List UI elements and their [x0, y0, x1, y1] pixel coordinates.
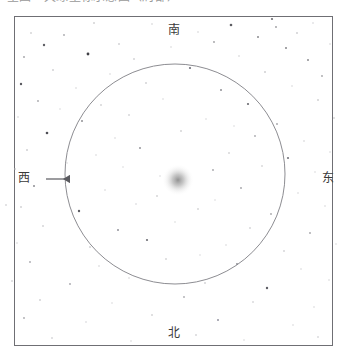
star-point: [33, 185, 35, 187]
star-point: [309, 232, 311, 234]
star-point: [214, 199, 215, 200]
star-point: [333, 117, 335, 119]
star-point: [240, 187, 242, 189]
star-point: [151, 314, 153, 316]
star-point: [100, 104, 102, 106]
star-point: [324, 205, 325, 206]
star-point: [197, 31, 198, 32]
star-point: [165, 258, 167, 260]
star-point: [151, 23, 152, 24]
star-point: [212, 169, 214, 171]
star-point: [128, 114, 130, 116]
star-point: [307, 59, 309, 61]
star-point: [135, 203, 136, 204]
star-point: [292, 324, 293, 325]
star-point: [122, 166, 123, 167]
star-point: [300, 268, 301, 269]
star-point: [195, 334, 197, 336]
star-point: [264, 71, 266, 73]
star-point: [285, 47, 287, 49]
star-point: [287, 157, 289, 159]
star-point: [159, 175, 160, 176]
star-point: [275, 26, 277, 28]
star-point: [109, 73, 110, 74]
star-point: [23, 317, 25, 319]
star-point: [205, 118, 206, 119]
star-point: [197, 208, 199, 210]
star-point: [37, 100, 39, 102]
star-point: [230, 24, 233, 27]
star-point: [111, 302, 112, 303]
star-point: [257, 36, 259, 38]
star-point: [95, 154, 96, 155]
star-point: [252, 301, 254, 303]
star-point: [20, 206, 22, 208]
star-point: [43, 44, 45, 46]
star-point: [81, 120, 83, 122]
star-point: [17, 116, 18, 117]
star-point: [16, 242, 17, 243]
star-point: [312, 22, 313, 23]
star-point: [52, 69, 54, 71]
star-point: [128, 277, 129, 278]
star-point: [78, 210, 80, 212]
star-point: [26, 149, 28, 151]
star-point: [51, 337, 53, 339]
star-point: [118, 43, 120, 45]
direction-label-south: 南: [168, 24, 180, 36]
star-point: [220, 89, 222, 91]
star-point: [104, 189, 105, 190]
star-point: [276, 123, 278, 125]
star-point: [217, 319, 219, 321]
star-point: [228, 152, 230, 154]
star-chart-panel: 星图 · 天球坐标示意图（局部） 南 北 东 西: [0, 0, 348, 356]
star-point: [20, 83, 22, 85]
star-point: [75, 87, 76, 88]
star-point: [249, 227, 251, 229]
star-point: [266, 287, 268, 289]
star-point: [291, 85, 292, 86]
center-nebula-glow: [162, 164, 194, 196]
star-point: [329, 43, 330, 44]
star-point: [63, 34, 65, 36]
star-point: [321, 75, 323, 77]
star-point: [297, 192, 298, 193]
star-point: [233, 125, 234, 126]
star-point: [328, 279, 329, 280]
star-point: [5, 204, 7, 206]
star-point: [271, 18, 273, 20]
star-point: [46, 132, 49, 135]
star-point: [133, 58, 135, 60]
star-point: [170, 46, 171, 47]
star-point: [89, 246, 91, 248]
star-point: [162, 98, 163, 99]
star-point: [335, 243, 336, 244]
star-point: [213, 41, 215, 43]
star-point: [98, 265, 99, 266]
star-point: [261, 165, 263, 167]
star-point: [238, 55, 239, 56]
star-point: [23, 56, 25, 58]
direction-label-north: 北: [168, 327, 180, 339]
star-point: [174, 221, 175, 222]
star-point: [85, 321, 86, 322]
star-point: [183, 296, 185, 298]
star-point: [145, 82, 147, 84]
star-point: [14, 168, 16, 170]
star-point: [317, 336, 319, 338]
star-point: [87, 53, 90, 56]
star-point: [254, 135, 256, 137]
star-point: [199, 254, 200, 255]
star-point: [114, 137, 115, 138]
star-point: [11, 280, 13, 282]
star-point: [139, 147, 141, 149]
direction-label-west: 西: [18, 172, 30, 184]
star-point: [296, 32, 298, 34]
star-point: [146, 239, 148, 241]
direction-label-east: 东: [322, 172, 334, 184]
star-point: [39, 299, 41, 301]
star-point: [189, 67, 191, 69]
star-point: [314, 171, 315, 172]
star-point: [313, 306, 314, 307]
star-point: [270, 213, 272, 215]
